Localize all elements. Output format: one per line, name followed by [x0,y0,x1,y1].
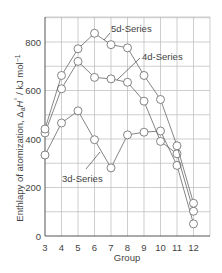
series-line [45,111,194,224]
x-tick-label: 9 [141,242,146,253]
annotation-label: 3d-Series [62,173,103,184]
x-tick-label: 3 [42,242,47,253]
data-point-marker [74,45,82,53]
series-3d-series [41,107,198,228]
annotation-label: 4d-Series [142,51,183,62]
y-axis-title: Enthlapy of atomization, ΔaH° / kJ mol−1 [14,54,26,221]
x-tick-label: 6 [92,242,97,253]
x-tick-label: 5 [75,242,80,253]
x-tick-label: 11 [172,242,182,253]
data-point-marker [107,41,115,49]
data-point-marker [190,207,198,215]
annotation-label: 5d-Series [111,23,152,34]
data-point-marker [124,44,132,52]
y-tick-label: 800 [25,37,41,48]
data-point-marker [58,119,66,127]
data-point-marker [107,164,115,172]
data-point-marker [190,220,198,228]
annotation-leader-line [104,33,110,40]
data-point-marker [58,85,66,93]
data-point-marker [107,75,115,83]
data-point-marker [173,142,181,150]
data-point-marker [41,125,49,133]
annotation-leader-line [117,58,140,80]
data-point-marker [91,136,99,144]
data-point-marker [41,151,49,159]
data-point-marker [91,73,99,81]
x-axis-title: Group [114,252,140,263]
data-point-marker [58,71,66,79]
data-point-marker [124,131,132,139]
data-point-marker [140,71,148,79]
data-point-marker [124,78,132,86]
annotation-leader-line [86,152,100,169]
y-tick-label: 0 [36,231,41,242]
data-point-marker [140,97,148,105]
y-tick-label: 400 [25,134,41,145]
x-tick-label: 12 [188,242,199,253]
series-line [45,61,194,211]
y-tick-label: 200 [25,182,41,193]
enthalpy-chart: 34567891011120200400600800 5d-Series4d-S… [0,0,222,273]
y-tick-label: 600 [25,85,41,96]
x-tick-label: 4 [59,242,64,253]
data-point-marker [74,57,82,65]
x-tick-label: 10 [155,242,166,253]
data-point-marker [157,137,165,145]
data-point-marker [157,95,165,103]
data-point-marker [74,107,82,115]
data-point-marker [91,29,99,37]
data-point-marker [190,199,198,207]
data-point-marker [140,128,148,136]
